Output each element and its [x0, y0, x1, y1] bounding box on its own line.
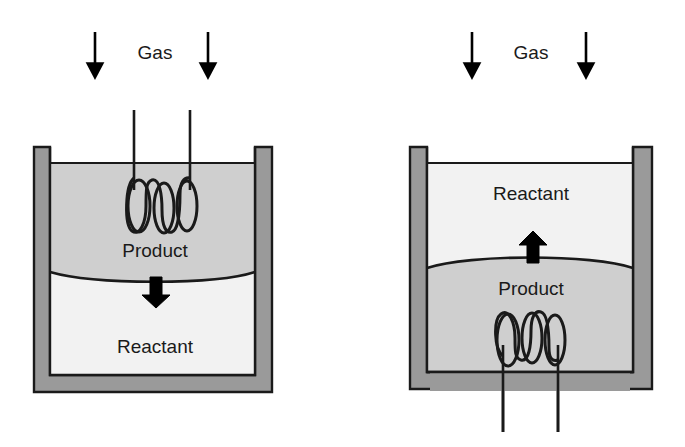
left-panel: Gas Product Reactant: [34, 32, 272, 392]
gas-label-left: Gas: [138, 42, 173, 63]
reactant-label-right: Reactant: [493, 183, 570, 204]
gas-label-right: Gas: [514, 42, 549, 63]
reaction-vessel-diagram: Gas Product Reactant: [0, 0, 685, 447]
right-panel: Gas Reactant Product: [410, 32, 652, 432]
diagram-canvas: Gas Product Reactant: [0, 0, 685, 447]
reactant-label-left: Reactant: [117, 336, 194, 357]
product-label-left: Product: [122, 240, 188, 261]
product-label-right: Product: [498, 278, 564, 299]
